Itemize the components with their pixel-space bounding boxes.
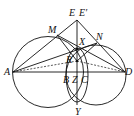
label-C: C	[81, 74, 88, 85]
label-A: A	[3, 66, 11, 77]
point-X	[76, 48, 78, 50]
label-E: E	[68, 7, 75, 18]
dashed-R-D	[77, 61, 125, 72]
point-R	[76, 60, 78, 62]
geometry-diagram: E E′ M N X R A B Z C D Y	[0, 0, 134, 116]
label-N: N	[95, 31, 104, 42]
label-Z: Z	[72, 74, 78, 85]
label-X: X	[78, 36, 86, 47]
label-R: R	[65, 54, 72, 65]
label-D: D	[124, 66, 133, 77]
label-B: B	[63, 74, 69, 85]
line-A-N	[13, 43, 97, 72]
label-Ep: E′	[78, 7, 88, 18]
label-M: M	[47, 24, 57, 35]
label-Y: Y	[75, 106, 82, 116]
